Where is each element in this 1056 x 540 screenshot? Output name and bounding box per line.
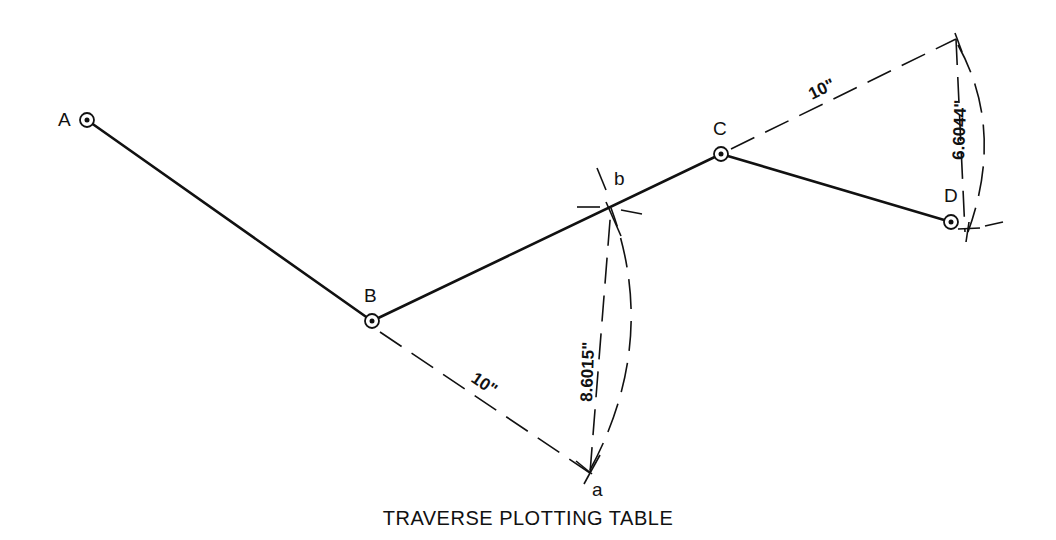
dimension-ext-D: 6.6044" <box>949 99 970 160</box>
station-C-marker <box>714 147 728 161</box>
traverse-line-C-D <box>721 154 951 222</box>
station-D-marker <box>944 215 958 229</box>
tick-a-2 <box>584 473 590 484</box>
arc-a-b <box>590 208 631 470</box>
tick-D-2 <box>985 222 1003 226</box>
traverse-diagram: A B C D b a 10" 8.6015" 10" 6.6044" <box>0 0 1056 540</box>
traverse-line-A-B <box>87 120 372 321</box>
tick-D-1 <box>958 228 980 229</box>
label-C: C <box>713 118 727 139</box>
tick-a-1 <box>576 461 592 474</box>
dimension-C-ext: 10" <box>805 75 838 104</box>
dimension-a-b: 8.6015" <box>577 341 598 402</box>
tick-b-3 <box>621 210 642 214</box>
tick-b-1 <box>597 168 606 190</box>
tick-b-4 <box>606 202 621 236</box>
label-b: b <box>614 168 625 189</box>
label-D: D <box>944 185 958 206</box>
station-B-marker <box>365 314 379 328</box>
diagram-caption: TRAVERSE PLOTTING TABLE <box>0 507 1056 530</box>
dimension-B-a: 10" <box>468 369 501 400</box>
label-B: B <box>364 285 377 306</box>
construction-line-B-a <box>380 332 590 473</box>
label-A: A <box>58 109 71 130</box>
construction-line-C-ext <box>731 39 956 149</box>
label-a: a <box>592 479 603 500</box>
chord-line-a-b <box>590 208 611 473</box>
traverse-line-B-C <box>372 154 721 321</box>
station-A-marker <box>80 113 94 127</box>
